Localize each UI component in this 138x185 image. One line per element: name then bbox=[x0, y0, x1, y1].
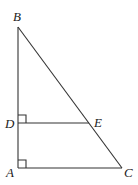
label-b: B bbox=[13, 9, 21, 24]
label-a: A bbox=[5, 165, 14, 180]
right-angle-marker-d bbox=[18, 115, 26, 123]
label-e: E bbox=[93, 115, 102, 130]
label-c: C bbox=[124, 165, 133, 180]
right-angle-marker-a bbox=[18, 160, 26, 168]
triangle-diagram: B D E A C bbox=[0, 0, 138, 185]
segment-bc bbox=[18, 27, 122, 168]
label-d: D bbox=[4, 116, 15, 131]
